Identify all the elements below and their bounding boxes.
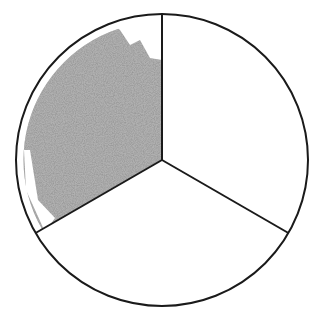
fraction-circle-diagram (0, 0, 323, 313)
divider-lower-right (162, 160, 288, 233)
shading-texture (24, 22, 162, 229)
